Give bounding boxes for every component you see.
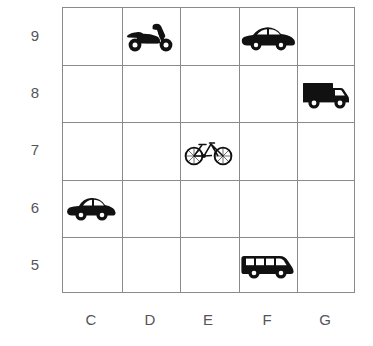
column-label-D: D <box>130 312 170 327</box>
row-label-5: 5 <box>20 257 50 272</box>
grid-line-vertical <box>297 8 298 292</box>
row-label-9: 9 <box>20 28 50 43</box>
scooter-icon <box>125 20 177 54</box>
row-label-6: 6 <box>20 200 50 215</box>
box-truck-icon <box>301 78 353 110</box>
minibus-icon <box>241 250 295 280</box>
row-label-8: 8 <box>20 85 50 100</box>
grid-line-horizontal <box>63 237 354 238</box>
column-label-F: F <box>247 312 287 327</box>
sedan-car-icon <box>240 23 296 51</box>
column-label-G: G <box>305 312 345 327</box>
grid-cell-E7[interactable] <box>180 122 239 179</box>
grid-cell-D9[interactable] <box>122 8 181 65</box>
bicycle-icon <box>184 136 234 166</box>
row-label-7: 7 <box>20 142 50 157</box>
grid-cell-C6[interactable] <box>63 180 122 237</box>
column-label-E: E <box>188 312 228 327</box>
vehicle-grid-board: 9 8 7 6 5 C D E F G <box>0 0 373 346</box>
column-label-C: C <box>71 312 111 327</box>
grid-cell-F5[interactable] <box>239 237 298 294</box>
hatchback-car-icon <box>67 194 117 222</box>
grid-cell-G8[interactable] <box>297 65 356 122</box>
grid-cell-F9[interactable] <box>239 8 298 65</box>
grid <box>62 7 355 293</box>
